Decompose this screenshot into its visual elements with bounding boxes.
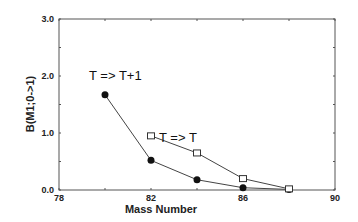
data-point — [194, 176, 201, 183]
plot-frame — [59, 19, 335, 190]
data-point — [148, 133, 155, 139]
data-point — [240, 184, 247, 191]
data-point — [102, 91, 109, 98]
y-axis-label: B(M1;0->1) — [24, 75, 36, 132]
annotation-t-to-t-plus-1: T => T+1 — [89, 68, 142, 83]
y-tick-1: 1.0 — [41, 128, 54, 138]
chart: 3.0 2.0 1.0 0.0 78 82 86 90 Mass Number … — [0, 0, 358, 222]
y-tick-2: 2.0 — [41, 71, 54, 81]
series-line-0 — [105, 95, 289, 190]
axis-ticks — [59, 19, 335, 190]
x-tick-1: 82 — [146, 193, 156, 203]
x-tick-2: 86 — [238, 193, 248, 203]
data-point — [148, 157, 155, 164]
x-tick-3: 90 — [330, 193, 340, 203]
data-point — [194, 150, 201, 156]
x-axis-label: Mass Number — [125, 203, 198, 215]
data-point — [286, 186, 293, 192]
y-tick-3: 3.0 — [41, 14, 54, 24]
x-tick-0: 78 — [54, 193, 64, 203]
y-tick-0: 0.0 — [41, 185, 54, 195]
data-series — [102, 91, 293, 193]
annotation-t-to-t: T => T — [159, 130, 197, 145]
data-point — [240, 176, 247, 182]
